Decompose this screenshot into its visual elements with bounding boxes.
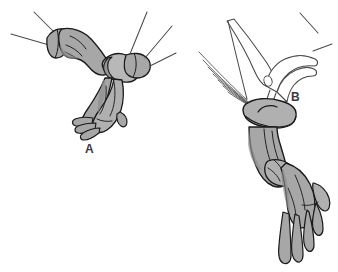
panel-label-a: A: [85, 143, 94, 155]
panel-a-glove-thumb: [117, 112, 127, 127]
panel-b-glove-cuff-band: [243, 99, 296, 128]
figure-container: A B: [0, 0, 338, 272]
illustration-svg: [0, 0, 338, 272]
panel-a-left-gloved-hand: [59, 28, 110, 75]
panel-label-b: B: [291, 91, 300, 103]
panel-b-upper-sleeve-line: [300, 13, 318, 33]
panel-a-illustration: [11, 12, 176, 140]
panel-b-gown-fan-lines: [199, 52, 253, 108]
panel-b-upper-sleeve-line-2: [313, 44, 332, 51]
panel-b-illustration: [199, 13, 332, 264]
panel-b-bare-hand: [227, 19, 318, 102]
